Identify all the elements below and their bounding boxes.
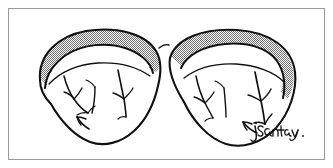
figure-container: Cerebellar tonsils / paired lobes - line… bbox=[0, 0, 333, 168]
signature-period bbox=[302, 135, 304, 137]
anatomical-illustration bbox=[0, 0, 333, 168]
